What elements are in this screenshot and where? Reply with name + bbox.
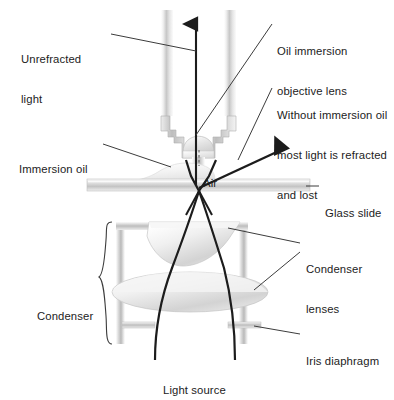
leader-condenser-lenses-bottom — [254, 252, 300, 290]
label-iris-diaphragm: Iris diaphragm — [306, 328, 379, 395]
label-air-text: Air — [203, 177, 217, 190]
label-immersion-oil-text: Immersion oil — [19, 163, 88, 176]
label-condenser: Condenser — [37, 283, 93, 350]
iris-diaphragm — [122, 322, 261, 328]
label-immersion-oil: Immersion oil — [19, 136, 88, 203]
label-iris-diaphragm-text: Iris diaphragm — [306, 355, 379, 368]
label-unrefracted-light-line2: light — [21, 93, 81, 106]
objective-barrel — [161, 10, 236, 116]
label-air: Air — [203, 150, 217, 217]
label-glass-slide-text: Glass slide — [325, 207, 382, 220]
label-condenser-text: Condenser — [37, 310, 93, 323]
objective-barrel-right — [224, 10, 236, 116]
label-light-source-text: Light source — [163, 384, 226, 397]
leader-iris-diaphragm — [254, 326, 300, 334]
label-without-oil-line2: most light is refracted — [277, 149, 387, 162]
label-without-oil-line1: Without immersion oil — [277, 109, 387, 122]
label-condenser-lenses-line1: Condenser — [306, 263, 362, 276]
condenser-top-lens — [147, 222, 240, 266]
label-unrefracted-light: Unrefracted light — [21, 26, 81, 133]
label-condenser-lenses-line2: lenses — [306, 303, 362, 316]
label-unrefracted-light-line1: Unrefracted — [21, 53, 81, 66]
label-light-source: Light source — [163, 357, 226, 400]
label-oil-immersion-line1: Oil immersion — [277, 45, 348, 58]
iris-diaphragm-left-blade — [122, 322, 155, 328]
leader-without-immersion-oil — [238, 88, 272, 160]
leader-immersion-oil — [103, 144, 171, 167]
condenser-bottom-lens — [112, 272, 268, 312]
condenser-brace-curly-brace-icon — [99, 222, 112, 344]
leader-condenser-lenses-top — [228, 228, 300, 243]
objective-barrel-left — [161, 10, 173, 116]
leader-unrefracted-light — [111, 34, 196, 51]
